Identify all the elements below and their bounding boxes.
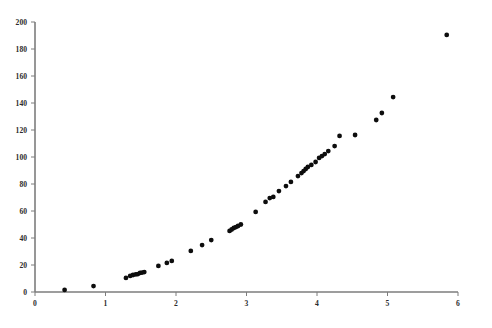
x-tick-label: 6 [456,299,460,308]
y-tick-label: 60 [19,207,27,216]
y-axis-ticks: 020406080100120140160180200 [16,18,35,297]
data-point [164,261,169,266]
data-point [313,160,318,165]
x-tick-label: 1 [104,299,108,308]
y-tick-label: 140 [16,99,28,108]
data-point [374,118,379,123]
data-point [289,180,294,185]
y-tick-label: 180 [16,45,28,54]
data-point [263,200,268,205]
x-axis-ticks: 0123456 [33,292,460,308]
x-tick-label: 5 [386,299,390,308]
data-point [124,276,129,281]
y-tick-label: 20 [19,261,27,270]
data-point [169,259,174,264]
x-tick-label: 3 [245,299,249,308]
data-point [62,288,67,293]
data-point [444,33,449,38]
scatter-plot: 020406080100120140160180200 0123456 [0,0,492,328]
y-tick-label: 200 [16,18,28,27]
x-tick-label: 2 [174,299,178,308]
y-tick-label: 40 [19,234,27,243]
data-point [391,95,396,100]
data-point [253,210,258,215]
data-point [156,264,161,269]
data-point [271,195,276,200]
y-tick-label: 100 [16,153,28,162]
data-point [142,270,147,275]
y-tick-label: 160 [16,72,28,81]
y-tick-label: 80 [19,180,27,189]
data-point [200,243,205,248]
data-point [326,149,331,154]
data-point [309,163,314,168]
data-point [337,134,342,139]
y-tick-label: 0 [23,288,27,297]
x-tick-label: 4 [315,299,319,308]
data-point [379,111,384,116]
chart-container: 020406080100120140160180200 0123456 [0,0,492,328]
data-point [284,184,289,189]
y-tick-label: 120 [16,126,28,135]
axes [35,22,458,292]
data-point [277,189,282,194]
data-point [332,144,337,149]
data-point [188,249,193,254]
data-point [209,238,214,243]
x-tick-label: 0 [33,299,37,308]
data-point [238,222,243,227]
data-points [62,33,449,293]
data-point [91,284,96,289]
data-point [353,133,358,138]
